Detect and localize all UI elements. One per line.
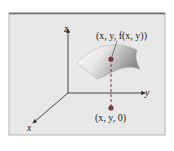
surface-point-label: (x, y, f(x, y)): [96, 30, 147, 42]
surface-point-diagram: z y x (x, y, f(x, y)) (x, y, 0): [0, 0, 174, 151]
surface-point: [108, 56, 113, 61]
base-point-label: (x, y, 0): [95, 112, 126, 124]
base-point: [108, 105, 113, 110]
z-axis-label: z: [63, 23, 68, 34]
x-axis-label: x: [26, 122, 32, 133]
y-axis-label: y: [144, 87, 150, 98]
